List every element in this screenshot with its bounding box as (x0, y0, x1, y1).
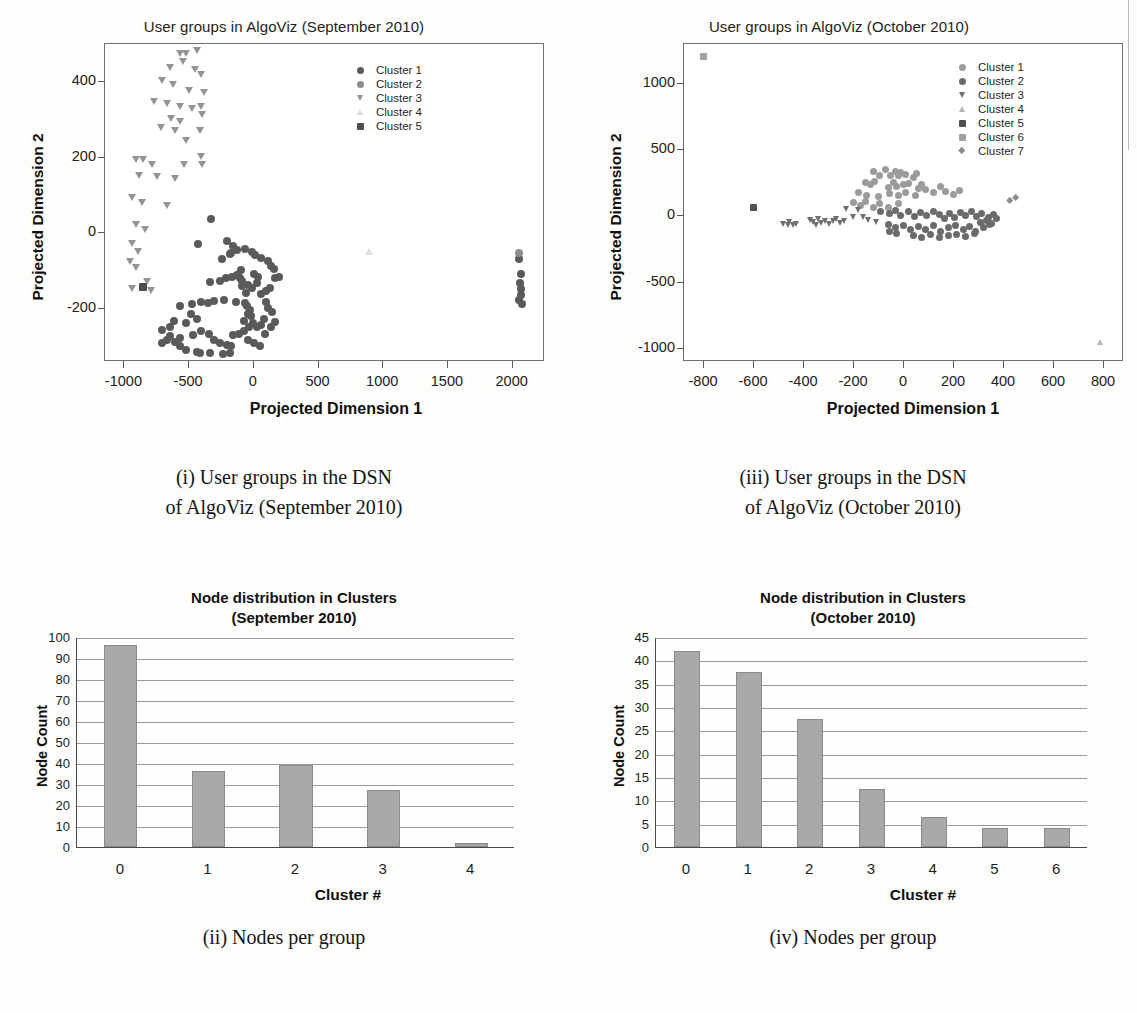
legend-marker-icon (352, 67, 368, 74)
scatter-point-circle (895, 192, 902, 199)
scatter-point-diamond (958, 147, 966, 155)
bar-x-tick-label: 1 (723, 860, 773, 877)
scatter-point-triangle-down (873, 219, 879, 225)
bar-y-tick-label: 5 (611, 817, 649, 832)
legend-row[interactable]: Cluster 2 (352, 77, 422, 91)
x-axis-title-october: Projected Dimension 1 (629, 400, 1137, 418)
scatter-point-triangle-up (365, 248, 373, 255)
scatter-title-october: User groups in AlgoViz (October 2010) (555, 18, 1123, 35)
scatter-point-triangle-down (865, 217, 871, 223)
bar-title-october-line1: Node distribution in Clusters (579, 588, 1137, 608)
bar-y-tick-label: 40 (32, 756, 70, 771)
legend-row[interactable]: Cluster 3 (954, 88, 1024, 102)
scatter-point-circle (886, 190, 893, 197)
bar-x-tick-label: 0 (661, 860, 711, 877)
y-tick-mark (677, 215, 684, 216)
x-tick-mark (703, 361, 704, 368)
scatter-point-circle (945, 232, 952, 239)
bar-y-tick-label: 30 (611, 700, 649, 715)
scatter-point-circle (915, 223, 922, 230)
legend-row[interactable]: Cluster 6 (954, 130, 1024, 144)
bar-y-tick-label: 100 (32, 630, 70, 645)
gridline (77, 680, 514, 681)
y-tick-label: -1000 (621, 339, 675, 355)
bar-y-tick-label: 20 (611, 747, 649, 762)
scatter-point-triangle-down (163, 100, 171, 107)
bar-y-tick-label: 60 (32, 714, 70, 729)
legend-label: Cluster 6 (978, 130, 1024, 144)
scatter-point-triangle-down (132, 221, 140, 228)
scatter-point-circle (912, 192, 919, 199)
scatter-point-triangle-down (138, 199, 146, 206)
bar (982, 828, 1008, 847)
x-tick-mark (188, 361, 189, 368)
legend-marker-icon (954, 64, 970, 71)
scatter-point-circle (950, 191, 957, 198)
x-tick-mark (1103, 361, 1104, 368)
scatter-point-circle (855, 189, 862, 196)
scatter-point-triangle-down (193, 47, 201, 54)
scatter-point-triangle-down (188, 105, 196, 112)
bar-y-tick-label: 35 (611, 677, 649, 692)
scatter-point-circle (268, 308, 276, 316)
scatter-point-triangle-down (807, 217, 813, 223)
legend-row[interactable]: Cluster 4 (352, 105, 422, 119)
scatter-point-circle (918, 234, 925, 241)
bar-plot-area-september (76, 638, 514, 848)
scatter-point-circle (952, 222, 959, 229)
scatter-point-circle (166, 323, 174, 331)
gridline (656, 731, 1087, 732)
bar-y-tick-label: 45 (611, 630, 649, 645)
scatter-point-circle (945, 224, 952, 231)
legend-row[interactable]: Cluster 5 (352, 119, 422, 133)
scatter-point-circle (275, 273, 283, 281)
scatter-point-circle (885, 221, 892, 228)
scatter-point-circle (182, 319, 190, 327)
legend-marker-icon (954, 148, 970, 153)
scatter-point-triangle-down (128, 285, 136, 292)
bar-title-september-line1: Node distribution in Clusters (10, 588, 578, 608)
scatter-point-square (959, 134, 966, 141)
scatter-point-circle (226, 250, 234, 258)
y-tick-label: -200 (42, 299, 96, 315)
legend-row[interactable]: Cluster 5 (954, 116, 1024, 130)
caption-panel-i: (i) User groups in the DSN of AlgoViz (S… (0, 462, 568, 522)
legend-row[interactable]: Cluster 7 (954, 144, 1024, 158)
scatter-point-triangle-down (132, 264, 140, 271)
y-tick-mark (98, 157, 105, 158)
x-tick-mark (1053, 361, 1054, 368)
scatter-point-triangle-down (128, 240, 136, 247)
scatter-point-triangle-down (850, 214, 856, 220)
bar-y-tick-label: 25 (611, 723, 649, 738)
gridline (77, 743, 514, 744)
scatter-point-circle (266, 284, 274, 292)
y-tick-mark (98, 232, 105, 233)
caption-i-line2: of AlgoViz (September 2010) (0, 492, 568, 522)
caption-i-line1: (i) User groups in the DSN (0, 462, 568, 492)
bar-x-tick-label: 1 (182, 860, 232, 877)
legend-row[interactable]: Cluster 4 (954, 102, 1024, 116)
scatter-point-triangle-down (855, 207, 861, 213)
legend-marker-icon (954, 106, 970, 112)
bar (674, 651, 700, 847)
scatter-point-triangle-down (134, 248, 142, 255)
scatter-point-square (357, 123, 364, 130)
legend-row[interactable]: Cluster 1 (352, 63, 422, 77)
legend-row[interactable]: Cluster 1 (954, 60, 1024, 74)
bar-y-tick-label: 15 (611, 770, 649, 785)
scatter-point-triangle-down (180, 161, 188, 168)
caption-panel-iv: (iv) Nodes per group (569, 922, 1137, 952)
bar (455, 843, 488, 847)
bar-x-tick-label: 3 (846, 860, 896, 877)
bar-x-axis-title-october: Cluster # (639, 886, 1137, 904)
scatter-point-triangle-down (128, 194, 136, 201)
legend-marker-icon (954, 78, 970, 85)
legend-row[interactable]: Cluster 3 (352, 91, 422, 105)
scatter-point-triangle-down (171, 175, 179, 182)
legend-october: Cluster 1Cluster 2Cluster 3Cluster 4Clus… (954, 60, 1024, 158)
scatter-point-circle (357, 67, 364, 74)
bar-y-tick-label: 90 (32, 651, 70, 666)
x-tick-label: 500 (283, 373, 353, 389)
x-tick-label: 800 (1068, 373, 1137, 389)
legend-row[interactable]: Cluster 2 (954, 74, 1024, 88)
